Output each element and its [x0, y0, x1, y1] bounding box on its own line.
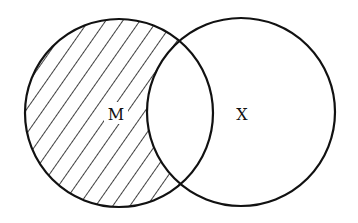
label-m: M — [108, 105, 124, 124]
label-x: X — [236, 105, 248, 124]
hatched-region-m-only — [0, 0, 358, 223]
venn-diagram: M X — [0, 0, 358, 223]
